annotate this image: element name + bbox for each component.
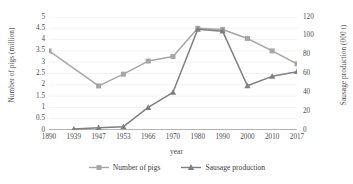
y-axis-right-tick: 60: [303, 69, 325, 77]
series-sausage-production: [71, 26, 297, 130]
legend-item-number-of-pigs[interactable]: Number of pigs: [88, 163, 161, 172]
y-axis-right-tick: 100: [303, 31, 325, 39]
data-point-marker-square: [146, 59, 151, 64]
legend-item-sausage-production[interactable]: Sausage production: [180, 163, 265, 172]
data-point-marker-triangle: [170, 89, 176, 95]
series-number-of-pigs: [49, 26, 297, 89]
data-point-marker-square: [49, 48, 52, 53]
data-point-marker-square: [96, 83, 101, 88]
legend-label: Sausage production: [205, 163, 265, 172]
y-axis-right-tick: 20: [303, 107, 325, 115]
y-axis-left-tick: 0.5: [23, 114, 45, 122]
data-point-marker-triangle: [145, 104, 151, 110]
data-point-marker-square: [121, 72, 126, 77]
y-axis-right-title: Sausage production (000 t): [340, 1, 350, 129]
y-axis-left-tick: 3.5: [23, 46, 45, 54]
chart-container: Number of pigs (million) Sausage product…: [0, 0, 353, 184]
y-axis-left-tick: 2.5: [23, 69, 45, 77]
data-point-marker-square: [270, 48, 275, 53]
x-axis-title: year: [0, 147, 353, 156]
y-axis-right-tick: 80: [303, 50, 325, 58]
chart-svg: [49, 17, 297, 130]
y-axis-left-tick: 1: [23, 103, 45, 111]
data-point-marker-square: [295, 61, 298, 66]
y-axis-left-tick: 4.5: [23, 24, 45, 32]
y-axis-right-tick: 120: [303, 13, 325, 21]
y-axis-left-title: Number of pigs (million): [8, 1, 18, 129]
y-axis-left-tick: 2: [23, 80, 45, 88]
y-axis-left-tick: 4: [23, 35, 45, 43]
y-axis-left-tick: 5: [23, 13, 45, 21]
data-point-marker-square: [245, 36, 250, 41]
legend-label: Number of pigs: [113, 163, 161, 172]
y-axis-right-tick: 40: [303, 88, 325, 96]
y-axis-left-tick: 3: [23, 58, 45, 66]
y-axis-left-tick: 1.5: [23, 92, 45, 100]
plot-area: [49, 17, 297, 130]
legend-square-icon: [88, 163, 110, 172]
chart-legend: Number of pigsSausage production: [0, 163, 353, 172]
data-point-marker-square: [171, 54, 176, 59]
legend-triangle-icon: [180, 163, 202, 172]
x-axis-tick: 2017: [282, 133, 312, 141]
